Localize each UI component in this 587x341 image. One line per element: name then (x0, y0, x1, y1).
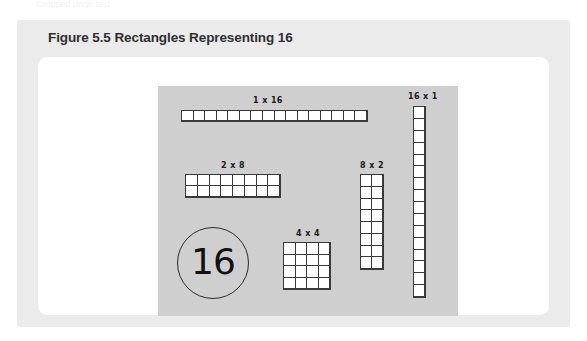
grid-cell (414, 178, 425, 190)
arrangement-8x2: 8 x 2 (358, 161, 390, 276)
grid-cell (414, 226, 425, 238)
grid-cell (257, 175, 269, 186)
grid-cell (309, 111, 321, 121)
grid-cell (296, 255, 308, 267)
arrangement-4x4-label: 4 x 4 (296, 229, 320, 238)
arrangement-16x1: 16 x 1 (408, 92, 440, 300)
number-circle-value: 16 (191, 244, 235, 280)
grid-cell (198, 175, 210, 186)
arrangement-16x1-label: 16 x 1 (408, 92, 438, 101)
grid-cell (233, 186, 245, 197)
grid-cell (286, 111, 298, 121)
figure-caption: Figure 5.5 Rectangles Representing 16 (48, 30, 293, 45)
grid-cell (205, 111, 217, 121)
grid-cell (257, 186, 269, 197)
grid-cell (186, 186, 198, 197)
grid-cell (217, 111, 229, 121)
grid-cell (319, 278, 331, 290)
grid-cell (414, 250, 425, 262)
number-circle: 16 (177, 227, 249, 299)
grid-cell (414, 261, 425, 273)
grid-cell (296, 243, 308, 255)
grid-cell (372, 175, 383, 187)
grid-cell (332, 111, 344, 121)
grid-cell (268, 175, 280, 186)
grid-cell (414, 238, 425, 250)
grid-cell (245, 186, 257, 197)
grid-cell (296, 266, 308, 278)
grid-cell (355, 111, 367, 121)
grid-cell (414, 119, 425, 131)
grid-cell (372, 222, 383, 234)
arrangement-4x4: 4 x 4 (283, 229, 335, 295)
grid-cell (414, 273, 425, 285)
grid-cell (372, 234, 383, 246)
grid-cell (263, 111, 275, 121)
grid-cell (228, 111, 240, 121)
grid-cell (319, 266, 331, 278)
grid-cell (284, 243, 296, 255)
grid-cell (414, 107, 425, 119)
arrangement-1x16: 1 x 16 (181, 96, 369, 126)
arrangement-8x2-label: 8 x 2 (360, 161, 384, 170)
grid-cell (372, 199, 383, 211)
grid-cell (198, 186, 210, 197)
arrangement-8x2-grid (360, 174, 384, 270)
arrangement-2x8-grid (185, 174, 281, 198)
grid-cell (372, 257, 383, 269)
grid-cell (319, 243, 331, 255)
grid-cell (194, 111, 206, 121)
grid-cell (307, 255, 319, 267)
arrangement-16x1-grid (413, 106, 426, 298)
grid-cell (361, 175, 372, 187)
grid-cell (361, 210, 372, 222)
grid-cell (210, 186, 222, 197)
arrangement-2x8: 2 x 8 (185, 161, 285, 201)
grid-cell (275, 111, 287, 121)
arrangement-2x8-label: 2 x 8 (221, 161, 245, 170)
arrangement-4x4-grid (283, 242, 331, 290)
diagram-image-plate: 1 x 16 (158, 86, 458, 316)
grid-cell (284, 278, 296, 290)
grid-cell (361, 246, 372, 258)
grid-cell (344, 111, 356, 121)
grid-cell (372, 210, 383, 222)
grid-cell (307, 266, 319, 278)
grid-cell (268, 186, 280, 197)
grid-cell (372, 246, 383, 258)
grid-cell (251, 111, 263, 121)
grid-cell (414, 285, 425, 297)
grid-cell (361, 199, 372, 211)
grid-cell (221, 175, 233, 186)
figure-container: Figure 5.5 Rectangles Representing 16 1 … (17, 20, 570, 327)
grid-cell (210, 175, 222, 186)
grid-cell (186, 175, 198, 186)
grid-cell (414, 166, 425, 178)
grid-cell (296, 278, 308, 290)
grid-cell (414, 131, 425, 143)
grid-cell (361, 222, 372, 234)
grid-cell (414, 190, 425, 202)
grid-cell (414, 202, 425, 214)
grid-cell (284, 266, 296, 278)
grid-cell (372, 187, 383, 199)
grid-cell (298, 111, 310, 121)
grid-cell (307, 278, 319, 290)
page-top-text-remnant: Cropped page text (36, 0, 206, 8)
grid-cell (361, 234, 372, 246)
grid-cell (414, 155, 425, 167)
grid-cell (182, 111, 194, 121)
grid-cell (240, 111, 252, 121)
arrangement-1x16-label: 1 x 16 (253, 96, 283, 105)
grid-cell (319, 255, 331, 267)
grid-cell (284, 255, 296, 267)
grid-cell (361, 257, 372, 269)
figure-card: 1 x 16 (38, 57, 549, 315)
grid-cell (221, 186, 233, 197)
grid-cell (307, 243, 319, 255)
grid-cell (245, 175, 257, 186)
grid-cell (414, 214, 425, 226)
grid-cell (361, 187, 372, 199)
grid-cell (321, 111, 333, 121)
grid-cell (233, 175, 245, 186)
